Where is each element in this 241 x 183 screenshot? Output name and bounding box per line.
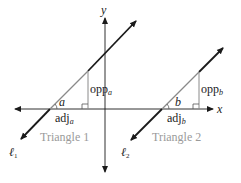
x-axis-label: x	[216, 102, 223, 116]
right-angle-mark	[193, 104, 199, 109]
right-angle-mark	[82, 104, 88, 109]
adj-a-label: adja	[55, 111, 74, 126]
diagram-canvas: x y a oppa adja Triangle 1 ℓ1 b oppb adj…	[0, 0, 241, 183]
angle-a-label: a	[59, 95, 65, 109]
adj-b-label: adjb	[167, 111, 186, 126]
angle-b-label: b	[175, 95, 181, 109]
angle-arc	[55, 104, 57, 109]
triangle-1-label: Triangle 1	[40, 130, 89, 144]
angle-arc	[167, 104, 169, 109]
triangle-2-label: Triangle 2	[152, 130, 201, 144]
y-axis-label: y	[100, 3, 107, 17]
line-l2-label: ℓ2	[121, 145, 130, 160]
line-l1-label: ℓ1	[9, 145, 18, 160]
opp-b-label: oppb	[201, 82, 223, 97]
triangle-1	[50, 71, 88, 109]
opp-a-label: oppa	[90, 82, 112, 97]
